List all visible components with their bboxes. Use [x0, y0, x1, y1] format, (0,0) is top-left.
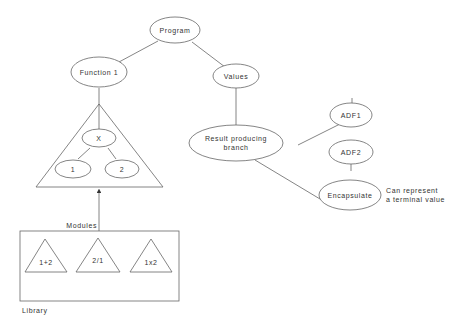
diagram-canvas: Program Function 1 Values X 1 2 Modules [0, 0, 465, 327]
library-module-1-label: 1+2 [39, 259, 53, 266]
node-function1-label: Function 1 [80, 69, 119, 76]
node-function1[interactable]: Function 1 [71, 57, 127, 87]
node-x-label: X [96, 135, 101, 142]
node-1[interactable]: 1 [55, 160, 91, 178]
node-x[interactable]: X [82, 129, 116, 147]
node-result-label-line2: branch [223, 144, 248, 151]
node-program-label: Program [159, 27, 190, 35]
node-values-label: Values [224, 73, 248, 80]
note-line1: Can represent [386, 187, 438, 195]
node-adf2[interactable]: ADF2 [329, 140, 373, 164]
edge-result-encapsulate [255, 160, 320, 199]
library-box[interactable]: 1+2 2/1 1x2 [20, 231, 179, 301]
node-result-producing-branch[interactable]: Result producing branch [189, 125, 283, 161]
edge-program-function1 [119, 41, 158, 62]
function-subtree-triangle[interactable]: X 1 2 [36, 104, 163, 187]
node-adf1[interactable]: ADF1 [330, 103, 372, 127]
node-program[interactable]: Program [150, 17, 200, 43]
node-values[interactable]: Values [213, 64, 259, 88]
library-module-3-label: 1x2 [144, 259, 157, 266]
node-1-label: 1 [71, 166, 76, 173]
note-line2: a terminal value [386, 196, 445, 203]
node-adf1-label: ADF1 [341, 112, 361, 119]
library-label: Library [22, 307, 48, 315]
library-module-2-label: 2/1 [92, 257, 104, 264]
node-2-label: 2 [120, 166, 125, 173]
node-result-label-line1: Result producing [205, 135, 267, 143]
edge-program-values [192, 42, 225, 67]
modules-label: Modules [66, 222, 97, 229]
node-2[interactable]: 2 [105, 160, 139, 178]
node-encapsulate-label: Encapsulate [327, 192, 372, 200]
node-encapsulate[interactable]: Encapsulate [319, 180, 381, 210]
node-adf2-label: ADF2 [341, 149, 361, 156]
